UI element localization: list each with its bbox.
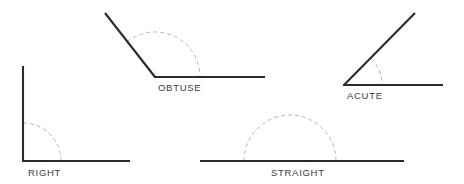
obtuse-angle-slanted-ray [105, 13, 155, 77]
acute-angle-arc [372, 59, 383, 86]
angle-group-obtuse: OBTUSE [105, 13, 265, 93]
right-angle-arc [23, 123, 61, 161]
obtuse-angle-label: OBTUSE [158, 82, 201, 93]
right-angle-label: RIGHT [28, 167, 61, 178]
acute-angle-slanted-ray [344, 13, 415, 85]
angle-diagram-canvas: RIGHT OBTUSE ACUTE STRAIGHT [0, 0, 464, 184]
angles-diagram: RIGHT OBTUSE ACUTE STRAIGHT [0, 0, 464, 184]
acute-angle-label: ACUTE [347, 90, 383, 101]
straight-angle-arc [244, 115, 336, 161]
angle-group-acute: ACUTE [343, 13, 443, 101]
angle-group-straight: STRAIGHT [200, 115, 404, 178]
straight-angle-label: STRAIGHT [271, 167, 325, 178]
angle-group-right: RIGHT [22, 66, 130, 178]
